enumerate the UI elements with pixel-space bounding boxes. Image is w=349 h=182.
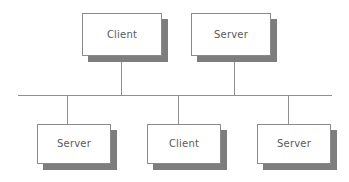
node-box[interactable]: Server: [191, 13, 271, 56]
node-box[interactable]: Client: [147, 124, 221, 164]
connector-bottom-server-right: [288, 95, 289, 124]
node-body: Server: [257, 124, 331, 164]
node-label: Client: [107, 30, 137, 40]
node-label: Server: [57, 139, 91, 149]
node-body: Server: [37, 124, 111, 164]
node-box[interactable]: Server: [37, 124, 111, 164]
network-diagram-canvas: Client Server Server Client Server: [0, 0, 349, 182]
node-label: Server: [214, 30, 248, 40]
node-label: Server: [277, 139, 311, 149]
node-label: Client: [169, 139, 199, 149]
node-body: Server: [191, 13, 271, 56]
node-body: Client: [147, 124, 221, 164]
connector-bottom-server-left: [67, 95, 68, 124]
node-body: Client: [82, 13, 162, 56]
connector-bottom-client: [178, 95, 179, 124]
bus-backbone-line: [18, 95, 332, 96]
node-box[interactable]: Client: [82, 13, 162, 56]
node-box[interactable]: Server: [257, 124, 331, 164]
